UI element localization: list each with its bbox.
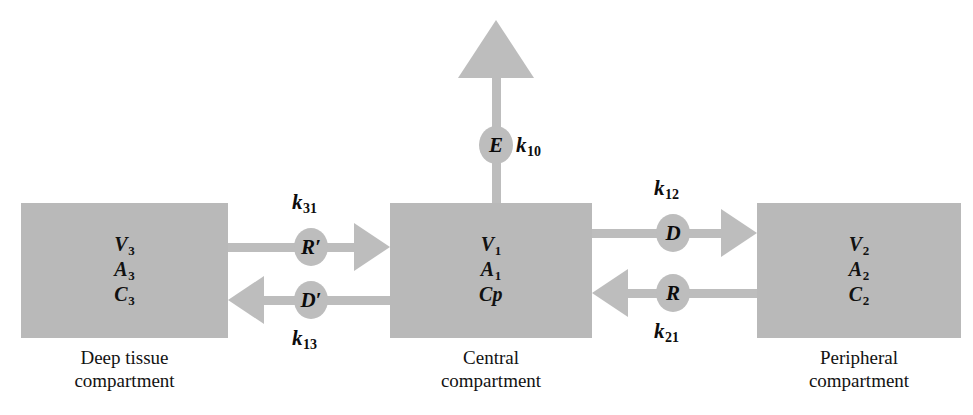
central-concentration-symbol: Cp xyxy=(479,283,503,305)
central-amount-symbol: A xyxy=(481,258,495,280)
peripheral-amount: A2 xyxy=(849,258,870,283)
deep-tissue-concentration-symbol: C xyxy=(114,283,128,305)
peripheral-amount-symbol: A xyxy=(849,258,863,280)
peripheral-concentration-symbol: C xyxy=(849,283,863,305)
deep-tissue-volume-symbol: V xyxy=(114,233,128,255)
rate-constant-k31: k31 xyxy=(292,190,317,217)
k12-base: k xyxy=(654,176,665,200)
peripheral-to-central-arrowhead-icon xyxy=(592,269,628,317)
elimination-arrowhead-icon xyxy=(458,20,534,78)
k31-sub: 31 xyxy=(303,201,317,216)
rate-constant-k12: k12 xyxy=(654,176,679,203)
peripheral-volume-subscript: 2 xyxy=(863,243,870,258)
central-concentration: Cp xyxy=(479,283,503,308)
rate-constant-k21: k21 xyxy=(654,319,679,346)
compartment-box-deep-tissue[interactable]: V3 A3 C3 xyxy=(21,203,228,338)
deep-to-central-arrowhead-icon xyxy=(354,223,390,271)
k31-base: k xyxy=(292,190,303,214)
caption-peripheral: Peripheral compartment xyxy=(757,346,961,392)
peripheral-volume-symbol: V xyxy=(849,233,863,255)
compartment-box-central[interactable]: V1 A1 Cp xyxy=(390,203,592,338)
k21-base: k xyxy=(654,319,665,343)
caption-deep-tissue: Deep tissue compartment xyxy=(21,346,228,392)
node-d-distribution[interactable]: D xyxy=(656,214,690,252)
k10-sub: 10 xyxy=(527,144,541,159)
rate-constant-k10: k10 xyxy=(516,133,541,160)
caption-central: Central compartment xyxy=(390,346,592,392)
deep-tissue-amount-subscript: 3 xyxy=(128,268,135,283)
central-amount-subscript: 1 xyxy=(495,268,502,283)
central-to-peripheral-arrowhead-icon xyxy=(721,209,757,257)
peripheral-amount-subscript: 2 xyxy=(863,268,870,283)
central-to-deep-arrowhead-icon xyxy=(228,276,264,324)
rate-constant-k13: k13 xyxy=(292,326,317,353)
central-volume-subscript: 1 xyxy=(495,243,502,258)
node-r-redistribution[interactable]: R xyxy=(656,274,690,312)
central-amount: A1 xyxy=(481,258,502,283)
compartment-model-diagram: E k10 R′ k31 D′ k13 D k12 R k21 V3 A3 C3… xyxy=(0,0,973,415)
central-volume-symbol: V xyxy=(481,233,495,255)
central-volume: V1 xyxy=(481,233,502,258)
k10-base: k xyxy=(516,133,527,157)
deep-tissue-volume: V3 xyxy=(114,233,135,258)
peripheral-concentration: C2 xyxy=(849,283,870,308)
node-r-prime-label: R′ xyxy=(301,235,321,260)
deep-tissue-amount: A3 xyxy=(114,258,135,283)
node-e-elimination[interactable]: E xyxy=(479,126,513,164)
compartment-box-peripheral[interactable]: V2 A2 C2 xyxy=(757,203,961,338)
deep-tissue-volume-subscript: 3 xyxy=(128,243,135,258)
k12-sub: 12 xyxy=(665,187,679,202)
node-d-prime-distribution[interactable]: D′ xyxy=(294,281,328,319)
peripheral-volume: V2 xyxy=(849,233,870,258)
k13-base: k xyxy=(292,326,303,350)
node-e-label: E xyxy=(489,133,503,158)
k13-sub: 13 xyxy=(303,337,317,352)
deep-tissue-concentration: C3 xyxy=(114,283,135,308)
deep-tissue-concentration-subscript: 3 xyxy=(128,293,135,308)
node-r-prime-redistribution[interactable]: R′ xyxy=(294,228,328,266)
node-d-label: D xyxy=(665,221,680,246)
node-d-prime-label: D′ xyxy=(300,288,321,313)
deep-tissue-amount-symbol: A xyxy=(114,258,128,280)
node-r-label: R xyxy=(666,281,680,306)
k21-sub: 21 xyxy=(665,330,679,345)
peripheral-concentration-subscript: 2 xyxy=(863,293,870,308)
